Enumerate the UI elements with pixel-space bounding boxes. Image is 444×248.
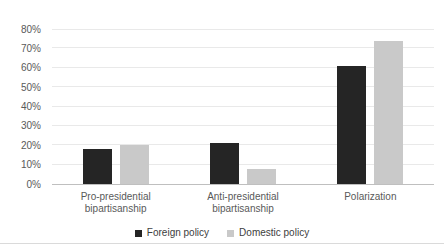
y-tick-label: 10% [0,159,47,170]
y-tick-label: 40% [0,101,47,112]
bar-foreign-policy [83,149,112,184]
bar-domestic-policy [247,169,276,185]
bar-group-pro-presidential [52,29,179,184]
legend-label: Foreign policy [147,227,209,239]
bar-groups [52,29,434,184]
x-category-label: Anti-presidential bipartisanship [179,191,306,214]
plot-area [52,29,434,185]
x-axis-labels: Pro-presidential bipartisanship Anti-pre… [52,191,434,214]
x-category-label: Polarization [307,191,434,214]
y-tick-label: 20% [0,140,47,151]
legend-swatch-icon [227,230,234,237]
y-tick-label: 60% [0,62,47,73]
legend-label: Domestic policy [239,227,309,239]
bar-domestic-policy [120,145,149,184]
figure-bottom-rule [0,243,444,244]
x-category-label: Pro-presidential bipartisanship [52,191,179,214]
legend-swatch-icon [135,230,142,237]
y-tick-label: 30% [0,120,47,131]
bar-group-polarization [307,29,434,184]
bar-foreign-policy [210,143,239,184]
bar-group-anti-presidential [179,29,306,184]
legend: Foreign policy Domestic policy [0,227,444,239]
y-tick-label: 80% [0,24,47,35]
bar-foreign-policy [337,66,366,184]
y-tick-label: 70% [0,43,47,54]
bar-chart-figure: 0% 10% 20% 30% 40% 50% 60% 70% 80% [0,0,444,248]
legend-item-domestic-policy: Domestic policy [227,227,309,239]
y-tick-label: 0% [0,179,47,190]
y-axis: 0% 10% 20% 30% 40% 50% 60% 70% 80% [0,29,47,184]
y-tick-label: 50% [0,82,47,93]
bar-domestic-policy [374,41,403,184]
legend-item-foreign-policy: Foreign policy [135,227,209,239]
